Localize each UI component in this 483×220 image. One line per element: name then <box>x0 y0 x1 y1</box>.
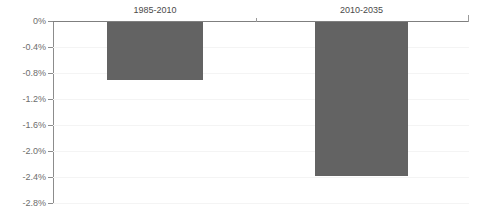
y-axis-label-6: -2.4% <box>2 173 46 182</box>
bar-chart: 0% -0.4% -0.8% -1.2% -1.6% -2.0% -2.4% -… <box>0 0 483 220</box>
y-axis-labels: 0% -0.4% -0.8% -1.2% -1.6% -2.0% -2.4% -… <box>0 0 46 220</box>
category-boundary-tick <box>256 18 257 22</box>
plot-area <box>53 21 469 203</box>
category-label-1985-2010: 1985-2010 <box>107 5 203 16</box>
gridline-6 <box>53 177 469 178</box>
y-axis-label-4: -1.6% <box>2 121 46 130</box>
axis-end-tick <box>468 15 469 22</box>
y-axis-label-5: -2.0% <box>2 147 46 156</box>
y-axis-label-1: -0.4% <box>2 43 46 52</box>
category-label-2010-2035: 2010-2035 <box>315 5 408 16</box>
y-axis-label-7: -2.8% <box>2 199 46 208</box>
y-axis-label-3: -1.2% <box>2 95 46 104</box>
bar-2010-2035 <box>315 22 408 176</box>
y-axis-label-0: 0% <box>2 17 46 26</box>
gridline-7 <box>53 203 469 204</box>
bar-1985-2010 <box>107 22 203 80</box>
y-axis-label-2: -0.8% <box>2 69 46 78</box>
